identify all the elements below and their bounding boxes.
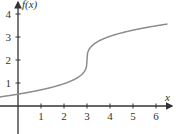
- x-axis-label: x: [164, 91, 170, 103]
- x-tick-label: 3: [84, 110, 90, 122]
- x-tick-label: 6: [153, 110, 159, 122]
- x-tick-label: 5: [130, 110, 136, 122]
- chart: 123456 1234 x f(x): [0, 0, 176, 134]
- x-tick-label: 1: [38, 110, 44, 122]
- y-tick-label: 2: [6, 54, 12, 66]
- x-tick-label: 2: [61, 110, 67, 122]
- y-tick-label: 3: [6, 31, 12, 43]
- y-tick-label: 1: [6, 77, 12, 89]
- function-curve: [0, 24, 167, 97]
- y-tick-label: 4: [6, 8, 12, 20]
- y-axis-label: f(x): [22, 0, 38, 11]
- x-tick-label: 4: [107, 110, 113, 122]
